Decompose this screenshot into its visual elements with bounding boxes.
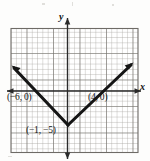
x-intercept-left-label: (−6, 0)	[7, 93, 32, 103]
x-intercept-right-label: (4, 0)	[88, 93, 107, 103]
vertex-label: (−1, −5)	[26, 126, 56, 136]
y-axis-label: y	[59, 12, 63, 22]
x-axis-label: x	[140, 82, 145, 92]
graph-figure: (−6, 0) (4, 0) (−1, −5) y x	[0, 0, 150, 161]
graph-canvas	[0, 0, 150, 161]
